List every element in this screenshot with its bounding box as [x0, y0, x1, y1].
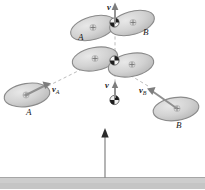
collision-diagram-svg [0, 0, 205, 189]
puck-group-middle [70, 43, 156, 80]
puck-b-middle-center-mark [129, 61, 135, 67]
label-velocity-b: vB [139, 86, 146, 95]
contact-marker-middle [110, 56, 119, 65]
label-puck-b-bottom: B [176, 121, 182, 130]
label-velocity-top: v [107, 3, 111, 12]
puck-a-middle-center-mark [92, 55, 98, 61]
puck-a-top-center-mark [90, 24, 96, 30]
label-velocity-center: v [105, 81, 109, 90]
label-puck-a-top: A [78, 33, 84, 42]
puck-b-top-center-mark [130, 19, 136, 25]
vertical-axis-arrow [101, 128, 108, 178]
label-puck-a-bottom: A [26, 108, 32, 117]
label-velocity-center-symbol: v [105, 80, 109, 90]
label-puck-b-top: B [143, 28, 149, 37]
label-velocity-a: vA [52, 85, 59, 94]
figure-canvas: A B A B v v vA vB [0, 0, 205, 189]
table-surface [0, 178, 205, 190]
label-velocity-b-subscript: B [143, 90, 147, 96]
puck-group-bottom [2, 80, 200, 124]
label-velocity-top-symbol: v [107, 2, 111, 12]
label-velocity-a-subscript: A [56, 89, 60, 95]
